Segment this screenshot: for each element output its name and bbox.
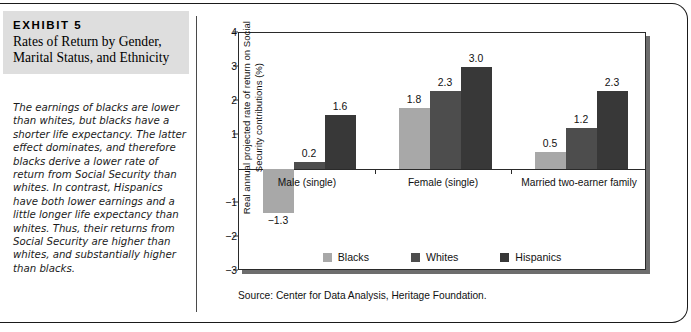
chart-legend: BlacksWhitesHispanics [238,251,646,263]
legend-swatch-icon [323,253,332,262]
bar-value-label: 1.6 [333,101,347,112]
legend-swatch-icon [500,253,509,262]
exhibit-title: Rates of Return by Gender, Marital Statu… [13,34,179,65]
x-category-label: Male (single) [278,177,336,188]
column-divider [196,16,197,312]
legend-item-whites[interactable]: Whites [411,251,458,263]
legend-swatch-icon [411,253,420,262]
exhibit-number-label: EXHIBIT 5 [13,19,179,31]
legend-label: Blacks [338,251,369,263]
y-tick-label: 4 [215,27,237,38]
y-tick-label: −1 [215,197,237,208]
bar-whites-2 [566,128,597,169]
bar-hispanics-0 [325,115,356,169]
group-separator-tick [511,169,512,174]
bar-value-label: 2.3 [605,77,619,88]
exhibit-title-box: EXHIBIT 5 Rates of Return by Gender, Mar… [3,11,189,74]
bar-value-label: 0.2 [302,148,316,159]
legend-item-hispanics[interactable]: Hispanics [500,251,561,263]
bar-value-label: 0.5 [543,138,557,149]
bar-value-label: 1.2 [574,114,588,125]
y-tick-label: 1 [215,129,237,140]
y-axis-tick-labels: 4321−1−2−3 [211,32,237,270]
chart-panel: −1.30.21.6Male (single)1.82.33.0Female (… [215,14,662,282]
bar-whites-1 [430,91,461,169]
y-tick-label: 3 [215,61,237,72]
y-tick-label: −3 [215,265,237,276]
bar-hispanics-1 [461,67,492,169]
legend-label: Whites [426,251,458,263]
group-separator-tick [375,169,376,174]
exhibit-caption: The earnings of blacks are lower than wh… [13,101,189,275]
exhibit-figure: EXHIBIT 5 Rates of Return by Gender, Mar… [0,0,691,332]
legend-label: Hispanics [515,251,561,263]
y-tick-label: 2 [215,95,237,106]
bar-value-label: 3.0 [469,53,483,64]
bar-whites-0 [294,162,325,169]
x-category-label: Married two-earner family [521,177,637,188]
exhibit-text-column: EXHIBIT 5 Rates of Return by Gender, Mar… [0,5,196,321]
x-category-label: Female (single) [408,177,478,188]
bar-value-label: −1.3 [268,215,289,226]
bar-value-label: 1.8 [407,94,421,105]
zero-axis-line [239,169,645,170]
bar-blacks-1 [399,108,430,169]
bar-blacks-2 [535,152,566,169]
bar-hispanics-2 [597,91,628,169]
plot-area: −1.30.21.6Male (single)1.82.33.0Female (… [238,32,646,270]
legend-item-blacks[interactable]: Blacks [323,251,369,263]
bar-value-label: 2.3 [438,77,452,88]
y-tick-label: −2 [215,231,237,242]
y-axis-label: Real annual projected rate of return on … [241,18,264,218]
source-note: Source: Center for Data Analysis, Herita… [238,290,487,301]
bar-blacks-0 [263,169,294,213]
